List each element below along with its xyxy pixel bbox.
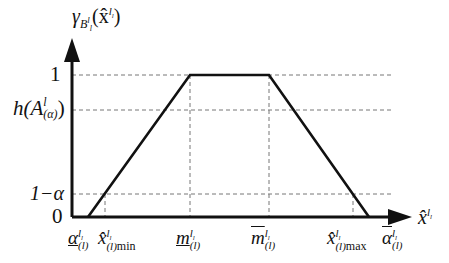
membership-diagram: [0, 0, 449, 263]
x-tick-x-min: x̂ll(l)min: [98, 228, 136, 252]
x-tick-m-lower-main: m: [176, 227, 190, 248]
x-tick-x-max-main: x̂: [327, 227, 335, 248]
y-title-arg: (x̂: [92, 5, 109, 27]
x-tick-m-lower: mll(l): [176, 228, 200, 251]
y-tick-zero: 0: [52, 206, 63, 227]
y-axis-title: γBll(x̂ll): [72, 6, 120, 29]
y-tick-h-sub: (α): [43, 108, 57, 120]
x-tick-x-max-sub: (l): [335, 240, 345, 252]
y-tick-h-main: h(A: [13, 96, 43, 120]
x-tick-x-min-sub: (l): [106, 240, 116, 252]
x-tick-m-upper: mll(l): [251, 228, 275, 251]
y-title-gamma: γ: [72, 5, 80, 27]
x-tick-alpha-upper-sub: (l): [392, 240, 402, 252]
x-tick-m-upper-main: m: [251, 227, 265, 248]
x-axis-title: x̂ll: [418, 207, 432, 227]
y-tick-one-minus-alpha: 1−α: [30, 183, 64, 203]
guide-lines: [72, 75, 392, 217]
x-tick-alpha-upper-main: α: [382, 227, 392, 248]
x-tick-alpha-lower-sub: (l): [78, 240, 88, 252]
x-tick-alpha-lower-main: α: [68, 227, 78, 248]
x-tick-x-min-suffix: min: [117, 239, 136, 253]
y-tick-h: h(Al(α)): [13, 98, 65, 122]
x-title-main: x̂: [418, 206, 427, 228]
y-title-close: ): [114, 5, 121, 27]
y-axis-arrow-icon: [64, 38, 80, 62]
x-tick-m-lower-sub: (l): [190, 240, 200, 252]
x-axis-arrow-icon: [388, 209, 412, 225]
x-tick-alpha-upper: αll(l): [382, 228, 402, 251]
x-title-sup-sub: l: [430, 214, 432, 222]
x-tick-x-max: x̂ll(l)max: [327, 228, 367, 252]
y-tick-h-close: ): [58, 96, 65, 120]
x-tick-x-max-suffix: max: [346, 239, 367, 253]
trapezoid-membership-curve: [88, 75, 369, 217]
x-tick-alpha-lower: αll(l): [68, 228, 88, 251]
x-tick-m-upper-sub: (l): [265, 240, 275, 252]
y-tick-one: 1: [50, 64, 61, 85]
x-tick-x-min-main: x̂: [98, 227, 106, 248]
